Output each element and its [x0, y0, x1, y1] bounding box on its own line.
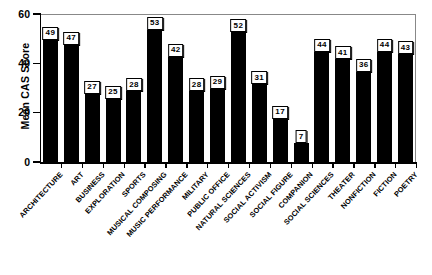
bar — [398, 56, 413, 162]
bar — [168, 58, 183, 162]
x-tick — [249, 162, 250, 168]
x-tick — [353, 162, 354, 168]
bars-container: 49472725285342282952311774441364443 — [40, 14, 416, 162]
x-tick — [374, 162, 375, 168]
bar-value-label: 28 — [189, 78, 205, 91]
bar-value-label: 49 — [43, 27, 59, 40]
x-tick-label: ART — [68, 170, 85, 187]
bar-group: 27 — [82, 14, 103, 162]
x-tick — [312, 162, 313, 168]
bar-group: 29 — [207, 14, 228, 162]
bar-cap — [356, 72, 371, 75]
x-tick — [124, 162, 125, 168]
bar — [273, 120, 288, 162]
bar-group: 49 — [40, 14, 61, 162]
bar-value-label: 31 — [251, 71, 267, 84]
bar-group: 36 — [353, 14, 374, 162]
bar — [294, 145, 309, 162]
bar-cap — [314, 52, 329, 55]
bar-value-label: 52 — [231, 19, 247, 32]
bar-value-label: 42 — [168, 44, 184, 57]
x-tick — [416, 162, 417, 168]
x-tick — [82, 162, 83, 168]
bar-group: 31 — [249, 14, 270, 162]
x-tick — [332, 162, 333, 168]
bar-cap — [189, 91, 204, 94]
bar-value-label: 7 — [296, 130, 307, 143]
x-tick — [103, 162, 104, 168]
bar-cap — [147, 30, 162, 33]
bar-group: 17 — [270, 14, 291, 162]
bar-group: 28 — [186, 14, 207, 162]
y-tick-label: 0 — [0, 157, 30, 168]
bar-value-label: 53 — [147, 17, 163, 30]
bar-chart: Mean CAS Score 0204060 49472725285342282… — [0, 0, 432, 275]
y-axis-title: Mean CAS Score — [19, 31, 31, 141]
bar-value-label: 25 — [105, 86, 121, 99]
bar-cap — [210, 89, 225, 92]
bar-group: 43 — [395, 14, 416, 162]
x-tick — [144, 162, 145, 168]
bar — [356, 73, 371, 162]
x-tick-label: ARCHITECTURE — [17, 170, 64, 220]
bar-cap — [85, 94, 100, 97]
bar-value-label: 29 — [210, 76, 226, 89]
bar-cap — [294, 143, 309, 146]
bar-group: 42 — [165, 14, 186, 162]
bar-value-label: 27 — [84, 81, 100, 94]
bar — [377, 53, 392, 162]
bar-group: 53 — [144, 14, 165, 162]
bar — [106, 100, 121, 162]
bar — [189, 93, 204, 162]
bar-group: 47 — [61, 14, 82, 162]
bar — [314, 53, 329, 162]
bar — [85, 95, 100, 162]
bar-cap — [106, 99, 121, 102]
x-tick — [207, 162, 208, 168]
bar-value-label: 44 — [314, 39, 330, 52]
bar-group: 28 — [124, 14, 145, 162]
bar — [147, 31, 162, 162]
bar-cap — [126, 91, 141, 94]
x-tick — [61, 162, 62, 168]
bar — [64, 46, 79, 162]
bar — [210, 90, 225, 162]
bar-cap — [168, 57, 183, 60]
bar-group: 41 — [332, 14, 353, 162]
bar-cap — [398, 54, 413, 57]
y-tick-label: 60 — [0, 9, 30, 20]
bar — [126, 93, 141, 162]
x-tick — [291, 162, 292, 168]
y-tick-label: 40 — [0, 58, 30, 69]
bar-value-label: 28 — [126, 78, 142, 91]
x-tick — [165, 162, 166, 168]
bar-value-label: 36 — [356, 59, 372, 72]
bar — [231, 34, 246, 162]
x-tick — [228, 162, 229, 168]
bar-cap — [335, 59, 350, 62]
bar-value-label: 47 — [63, 32, 79, 45]
bar-group: 52 — [228, 14, 249, 162]
bar-value-label: 43 — [398, 41, 414, 54]
bar-cap — [377, 52, 392, 55]
bar-group: 44 — [312, 14, 333, 162]
bar — [335, 61, 350, 162]
bar — [43, 41, 58, 162]
bar-cap — [64, 45, 79, 48]
bar-cap — [252, 84, 267, 87]
bar-cap — [231, 32, 246, 35]
x-tick — [186, 162, 187, 168]
y-tick-label: 20 — [0, 107, 30, 118]
bar-value-label: 17 — [272, 106, 288, 119]
bar-cap — [273, 119, 288, 122]
bar-group: 7 — [291, 14, 312, 162]
bar-value-label: 44 — [377, 39, 393, 52]
bar-value-label: 41 — [335, 46, 351, 59]
bar-cap — [43, 40, 58, 43]
x-tick — [270, 162, 271, 168]
bar-group: 44 — [374, 14, 395, 162]
x-tick — [395, 162, 396, 168]
bar — [252, 86, 267, 162]
bar-group: 25 — [103, 14, 124, 162]
